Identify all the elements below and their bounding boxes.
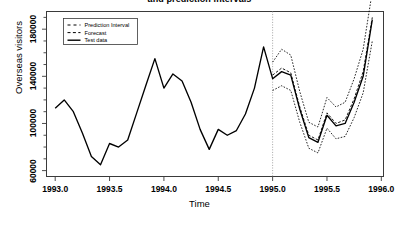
prediction-interval-lower <box>273 41 373 153</box>
legend: Prediction IntervalForecastTest data <box>64 19 138 45</box>
legend-label-0: Prediction Interval <box>85 22 130 28</box>
forecast-line <box>273 17 373 140</box>
plot-area: Prediction IntervalForecastTest data <box>0 0 399 227</box>
chart-container: and prediction intervals Overseas visito… <box>0 0 399 227</box>
legend-label-2: Test data <box>85 37 109 43</box>
legend-label-1: Forecast <box>85 30 107 36</box>
